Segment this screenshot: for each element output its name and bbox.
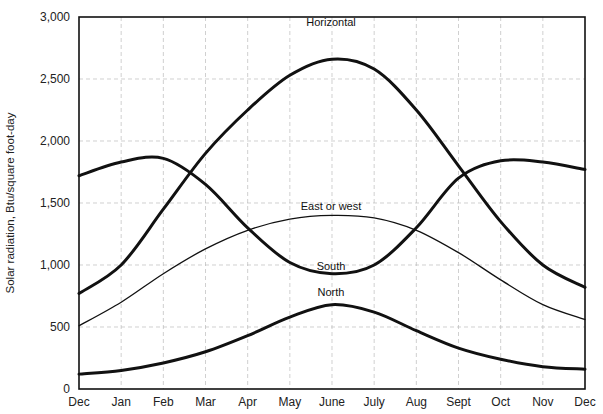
- x-axis-ticks: DecJanFebMarAprMayJuneJulyAugSeptOctNovD…: [68, 395, 595, 409]
- x-tick-label: Nov: [532, 395, 553, 409]
- series-label: Horizontal: [306, 16, 356, 28]
- x-tick-label: Mar: [195, 395, 216, 409]
- x-tick-label: May: [278, 395, 301, 409]
- y-tick-label: 1,500: [40, 196, 70, 210]
- x-tick-label: Aug: [406, 395, 427, 409]
- y-tick-label: 2,500: [40, 72, 70, 86]
- series-label: South: [317, 260, 346, 272]
- y-tick-label: 3,000: [40, 10, 70, 24]
- x-tick-label: Oct: [491, 395, 510, 409]
- y-tick-label: 1,000: [40, 258, 70, 272]
- series-label: North: [318, 286, 345, 298]
- y-tick-label: 2,000: [40, 134, 70, 148]
- x-tick-label: June: [319, 395, 345, 409]
- x-tick-label: Dec: [574, 395, 595, 409]
- x-tick-label: Sept: [446, 395, 471, 409]
- solar-radiation-chart: 05001,0001,5002,0002,5003,000 DecJanFebM…: [0, 0, 603, 414]
- x-tick-label: Feb: [153, 395, 174, 409]
- y-tick-label: 0: [63, 382, 70, 396]
- x-tick-label: July: [363, 395, 384, 409]
- x-tick-label: Apr: [238, 395, 257, 409]
- x-tick-label: Dec: [68, 395, 89, 409]
- y-axis-label: Solar radiation, Btu/square foot-day: [4, 112, 16, 293]
- series-label: East or west: [301, 200, 362, 212]
- x-tick-label: Jan: [111, 395, 130, 409]
- y-tick-label: 500: [50, 320, 70, 334]
- y-axis-ticks: 05001,0001,5002,0002,5003,000: [40, 10, 70, 396]
